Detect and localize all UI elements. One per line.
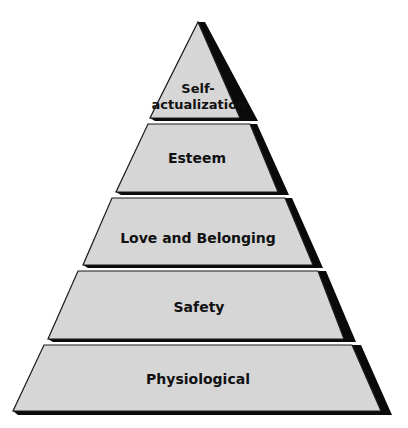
level-safety: Safety (48, 271, 356, 342)
level-esteem: Esteem (116, 124, 289, 195)
level-label-line1: Self- (181, 81, 214, 96)
level-label: Safety (174, 299, 225, 315)
level-label: Love and Belonging (120, 230, 276, 246)
pyramid-diagram: Self- actualization Esteem Love and Belo… (0, 0, 408, 428)
level-physiological: Physiological (13, 345, 392, 415)
level-label: Esteem (168, 150, 226, 166)
level-love-and-belonging: Love and Belonging (83, 198, 323, 268)
level-self-actualization: Self- actualization (150, 22, 258, 121)
level-label: Physiological (146, 371, 250, 387)
level-label-line2: actualization (152, 97, 247, 112)
